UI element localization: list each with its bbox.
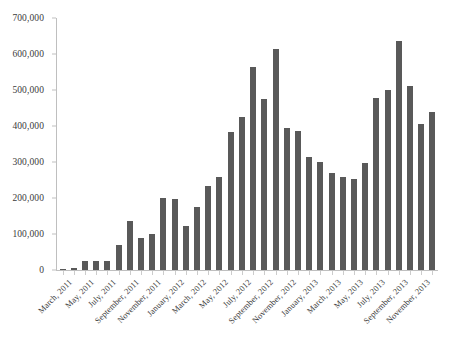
x-axis-tick-mark [163, 271, 164, 275]
x-axis-tick-mark [253, 271, 254, 275]
x-axis-tick-label-text: July, 2011 [86, 277, 118, 309]
x-axis-tick-label: September, 2012 [227, 277, 276, 326]
x-axis-tick-label-text: May, 2013 [332, 277, 365, 310]
bar [373, 98, 379, 270]
x-axis-tick-label: May, 2013 [332, 277, 365, 310]
x-axis-tick-mark [141, 271, 142, 275]
x-axis-tick-label-text: November, 2012 [250, 277, 298, 325]
x-axis-tick-label-text: March, 2013 [304, 277, 343, 316]
bar [261, 99, 267, 270]
bar [362, 163, 368, 270]
x-axis-tick-mark [96, 271, 97, 275]
y-axis-tick-label: 500,000 [12, 85, 44, 95]
bar [317, 162, 323, 270]
x-axis-tick-mark [175, 271, 176, 275]
x-axis-tick-mark [309, 271, 310, 275]
y-axis-tick-label: 400,000 [12, 121, 44, 131]
bar [250, 67, 256, 270]
x-axis-tick-mark [152, 271, 153, 275]
x-axis-tick-mark [410, 271, 411, 275]
x-axis-tick-mark [231, 271, 232, 275]
bar [340, 177, 346, 270]
x-axis-tick-label: January, 2012 [144, 277, 185, 318]
x-axis-tick-mark [130, 271, 131, 275]
x-axis-tick-label: November, 2012 [250, 277, 298, 325]
y-axis: 0100,000200,000300,000400,000500,000600,… [0, 0, 52, 348]
x-axis-tick-label: May, 2011 [63, 277, 96, 310]
plot-area [57, 18, 438, 270]
bar [273, 49, 279, 270]
x-axis-line [56, 270, 438, 271]
bar [216, 177, 222, 270]
x-axis-tick-mark [399, 271, 400, 275]
x-axis-tick-mark [264, 271, 265, 275]
x-axis-tick-mark [107, 271, 108, 275]
x-axis-tick-label: March, 2013 [304, 277, 343, 316]
x-axis-tick-label: November, 2011 [115, 277, 163, 325]
bar [138, 238, 144, 270]
bar [295, 131, 301, 270]
x-axis-tick-mark [242, 271, 243, 275]
bar [418, 124, 424, 270]
x-axis-tick-label: July, 2011 [86, 277, 118, 309]
x-axis-tick-label: July, 2013 [355, 277, 387, 309]
x-axis-tick-label-text: January, 2013 [279, 277, 320, 318]
x-axis-tick-label: March, 2012 [170, 277, 209, 316]
bar [429, 112, 435, 270]
bar [183, 226, 189, 270]
y-axis-tick-mark [52, 162, 56, 163]
x-axis-tick-mark [388, 271, 389, 275]
y-axis-tick-mark [52, 54, 56, 55]
bar [239, 117, 245, 270]
x-axis-tick-label: November, 2013 [384, 277, 432, 325]
x-axis-tick-mark [219, 271, 220, 275]
x-axis-tick-mark [119, 271, 120, 275]
x-axis-tick-label: September, 2011 [92, 277, 140, 325]
x-axis-tick-mark [276, 271, 277, 275]
x-axis-tick-label-text: May, 2011 [63, 277, 96, 310]
bar [104, 261, 110, 270]
x-axis-tick-label-text: January, 2012 [144, 277, 185, 318]
y-axis-tick-mark [52, 90, 56, 91]
bar [407, 86, 413, 270]
x-axis-tick-label-text: July, 2012 [221, 277, 253, 309]
x-axis-tick-mark [186, 271, 187, 275]
x-axis-tick-mark [376, 271, 377, 275]
x-axis-tick-label: May, 2012 [197, 277, 230, 310]
bar [149, 234, 155, 270]
x-axis-tick-mark [197, 271, 198, 275]
bar [172, 199, 178, 270]
x-axis-tick-label-text: July, 2013 [355, 277, 387, 309]
bar [194, 207, 200, 270]
x-axis-tick-label: July, 2012 [221, 277, 253, 309]
bar [93, 261, 99, 270]
x-axis-tick-mark [63, 271, 64, 275]
y-axis-tick-label: 700,000 [12, 13, 44, 23]
y-axis-tick-label: 100,000 [12, 229, 44, 239]
x-axis-tick-mark [320, 271, 321, 275]
x-axis-tick-mark [365, 271, 366, 275]
x-axis-tick-label-text: November, 2013 [384, 277, 432, 325]
x-axis-tick-label-text: September, 2013 [361, 277, 410, 326]
y-axis-tick-mark [52, 270, 56, 271]
x-axis-tick-mark [287, 271, 288, 275]
bar [205, 186, 211, 270]
x-axis-tick-mark [85, 271, 86, 275]
x-axis-tick-mark [432, 271, 433, 275]
x-axis-tick-mark [332, 271, 333, 275]
bar [82, 261, 88, 270]
x-axis-tick-mark [74, 271, 75, 275]
y-axis-tick-mark [52, 234, 56, 235]
x-axis-tick-mark [354, 271, 355, 275]
bar [306, 157, 312, 270]
x-axis-tick-mark [208, 271, 209, 275]
y-axis-tick-mark [52, 198, 56, 199]
bar-chart: 0100,000200,000300,000400,000500,000600,… [0, 0, 454, 348]
x-axis-tick-label-text: September, 2011 [92, 277, 140, 325]
bar [396, 41, 402, 270]
bar [385, 90, 391, 270]
bar [284, 128, 290, 270]
y-axis-tick-label: 600,000 [12, 49, 44, 59]
bar [329, 173, 335, 270]
y-axis-tick-mark [52, 126, 56, 127]
